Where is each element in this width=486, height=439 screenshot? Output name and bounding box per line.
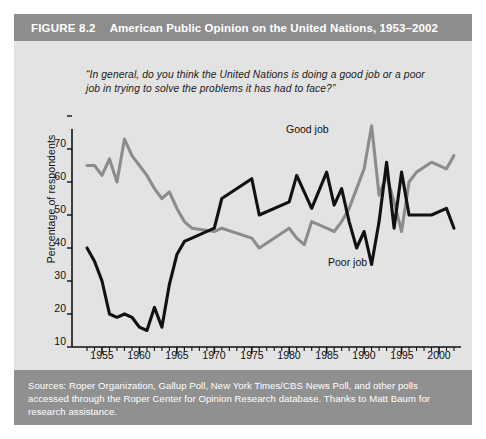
figure-card: FIGURE 8.2 American Public Opinion on th… — [14, 14, 472, 425]
axis-lines — [72, 129, 461, 347]
figure-number: FIGURE 8.2 — [31, 22, 96, 34]
source-footer-bar: Sources: Roper Organization, Gallup Poll… — [14, 370, 472, 425]
figure-title-bar: FIGURE 8.2 American Public Opinion on th… — [14, 14, 472, 41]
figure-title: American Public Opinion on the United Na… — [110, 22, 438, 34]
poor-job-line — [87, 162, 454, 330]
source-text: Sources: Roper Organization, Gallup Poll… — [28, 379, 460, 419]
chart-plot-area: “In general, do you think the United Nat… — [14, 41, 472, 370]
line-chart-svg — [14, 41, 472, 370]
x-axis-major-ticks — [102, 347, 439, 354]
